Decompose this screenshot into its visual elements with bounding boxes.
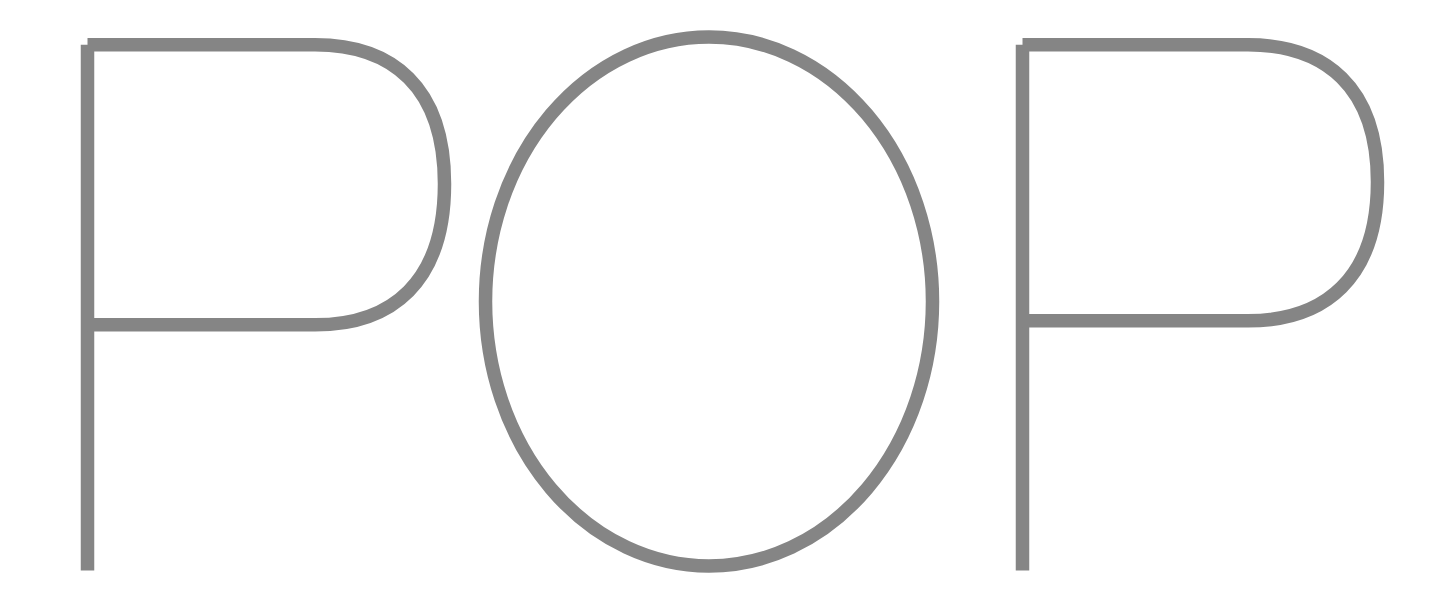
pop-lettering-artwork [0, 0, 1444, 607]
artwork-canvas: POP [0, 0, 1444, 607]
background-rect [0, 0, 1444, 607]
